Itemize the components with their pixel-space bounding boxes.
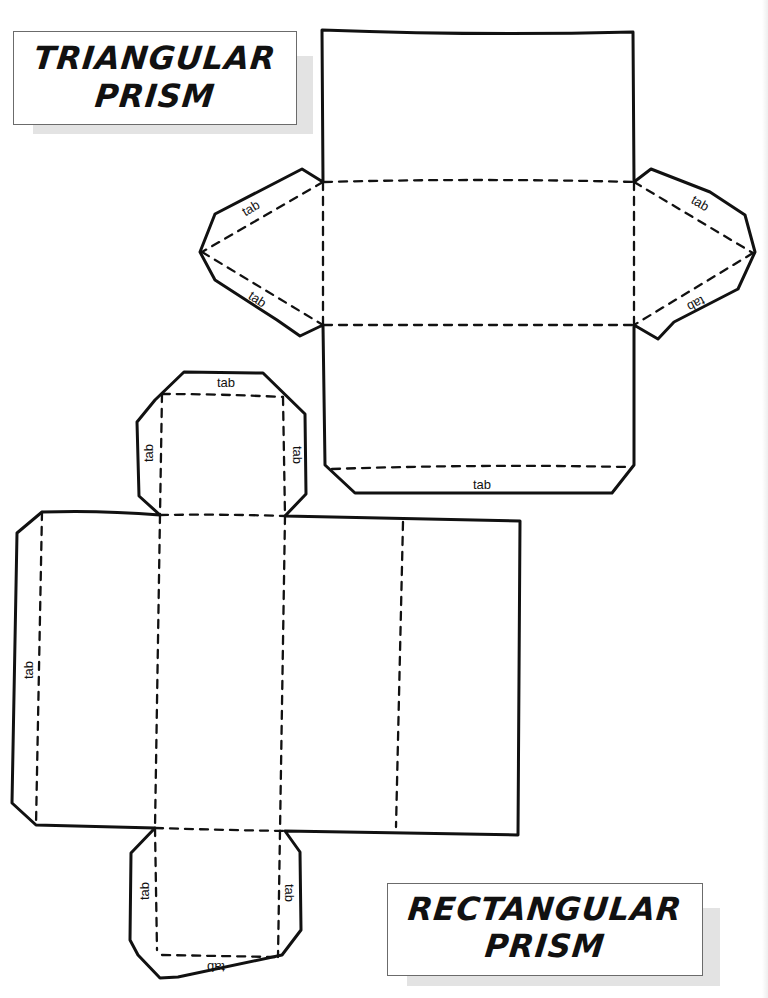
fold-left-tab <box>36 512 42 825</box>
prism-nets: tab tab tab tab tab tab tab tab tab tab … <box>0 0 768 998</box>
tab-label-right-lower: tab <box>685 293 708 315</box>
tab-label-bottom-cap-right: tab <box>282 884 297 902</box>
fold-main-top <box>160 515 285 516</box>
fold-col-3 <box>396 522 403 827</box>
fold-top-cap-top <box>162 394 283 397</box>
fold-col-2 <box>280 516 285 831</box>
fold-bottom-cap-left <box>155 828 157 950</box>
tab-label-left-side: tab <box>21 661 36 679</box>
tab-label-bottom-cap-bottom: tab <box>207 960 225 975</box>
fold-line-right-tri-upper <box>634 182 753 253</box>
rectangular-net-outline <box>12 372 520 978</box>
fold-bottom-cap-right <box>278 831 280 957</box>
fold-bottom-cap-bottom <box>162 955 275 957</box>
tab-label-bottom: tab <box>473 477 491 492</box>
tab-label-top-cap-left: tab <box>141 444 156 462</box>
fold-top-cap-left <box>160 394 162 515</box>
tab-label-bottom-cap-left: tab <box>137 882 152 900</box>
fold-line-left-tri-lower <box>202 252 323 325</box>
fold-line-bottom-tab <box>332 466 628 469</box>
triangular-net-outline <box>200 30 755 493</box>
fold-line-left-tri-upper <box>202 182 323 252</box>
triangular-prism-net: tab tab tab tab tab <box>200 30 755 493</box>
tab-label-right-upper: tab <box>689 192 712 214</box>
rectangular-prism-net: tab tab tab tab tab tab tab <box>12 372 520 978</box>
fold-col-1 <box>155 515 160 828</box>
tab-label-top-cap-top: tab <box>217 375 235 390</box>
fold-main-bottom <box>155 828 285 831</box>
fold-line-top <box>324 180 634 182</box>
tab-label-top-cap-right: tab <box>290 446 305 464</box>
fold-top-cap-right <box>283 397 285 516</box>
